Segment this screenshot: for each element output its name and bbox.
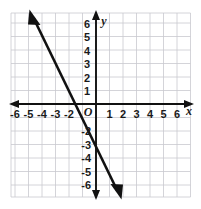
x-tick-label: -4	[37, 108, 48, 120]
y-tick-label: -2	[81, 125, 91, 137]
graph-svg: -6 -5 -4 -3 -2 1 2 3 4 5 6 6 5 4 3 2 1 -…	[0, 0, 201, 209]
y-tick-label: 6	[84, 18, 90, 30]
origin-label: O	[84, 105, 93, 119]
y-tick-label: 1	[84, 85, 90, 97]
y-tick-label: 3	[84, 58, 90, 70]
x-tick-label: 4	[147, 108, 154, 120]
x-tick-label: 6	[174, 108, 180, 120]
y-tick-label: -4	[81, 152, 92, 164]
x-tick-label: -6	[10, 108, 20, 120]
x-tick-label: -2	[64, 108, 74, 120]
y-tick-label: -3	[81, 139, 91, 151]
y-tick-label: -6	[81, 179, 91, 191]
x-tick-label: 1	[106, 108, 112, 120]
y-tick-label: -5	[81, 166, 91, 178]
x-axis-label: x	[185, 104, 192, 118]
coordinate-plane-figure: -6 -5 -4 -3 -2 1 2 3 4 5 6 6 5 4 3 2 1 -…	[0, 0, 201, 209]
x-tick-label: 3	[133, 108, 139, 120]
y-tick-label: 5	[84, 31, 90, 43]
x-tick-label: 2	[120, 108, 126, 120]
x-tick-label: -5	[24, 108, 34, 120]
y-axis-label: y	[99, 14, 107, 28]
x-tick-label: 5	[160, 108, 166, 120]
y-tick-label: 2	[84, 72, 90, 84]
y-tick-label: 4	[84, 45, 91, 57]
x-tick-label: -3	[51, 108, 61, 120]
